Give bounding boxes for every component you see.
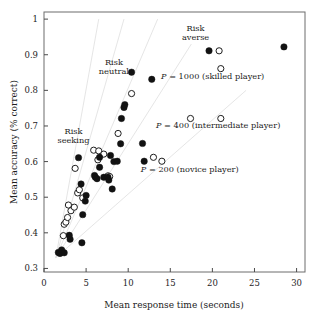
y-tick-label: 0.8 <box>24 85 38 95</box>
annotation-risk-neutral: neutral <box>99 66 129 76</box>
x-tick-label: 30 <box>291 278 302 288</box>
y-tick-label: 0.3 <box>24 263 38 273</box>
data-point <box>64 214 70 220</box>
data-point <box>78 181 84 187</box>
data-point <box>61 250 67 256</box>
data-point <box>60 233 66 239</box>
data-point <box>76 187 82 193</box>
y-tick-label: 1 <box>33 14 38 24</box>
data-point <box>75 154 81 160</box>
data-point <box>281 44 287 50</box>
y-tick-label: 0.6 <box>24 157 38 167</box>
y-tick-label: 0.9 <box>24 50 38 60</box>
data-point <box>96 154 102 160</box>
data-point <box>216 48 222 54</box>
data-point <box>117 141 123 147</box>
data-point <box>149 76 155 82</box>
data-point <box>122 101 128 107</box>
data-point <box>109 186 115 192</box>
data-point <box>139 140 145 146</box>
data-point <box>206 48 212 54</box>
x-tick-label: 0 <box>41 278 46 288</box>
annotation-p-200: P = 200 (novice player) <box>140 164 239 174</box>
y-tick-label: 0.5 <box>24 192 38 202</box>
data-point <box>106 177 112 183</box>
data-point <box>150 154 156 160</box>
data-point <box>71 204 77 210</box>
data-point <box>118 115 124 121</box>
annotation-risk-averse: averse <box>182 32 209 42</box>
data-point <box>72 165 78 171</box>
annotation-p-400: P = 400 (intermediate player) <box>155 120 280 130</box>
data-point <box>128 90 134 96</box>
x-tick-label: 20 <box>207 278 218 288</box>
data-point <box>114 158 120 164</box>
y-axis-title: Mean accuracy (% correct) <box>9 80 19 204</box>
chart-canvas: 0.30.40.50.60.70.80.91 051015202530 Risk… <box>0 0 319 321</box>
data-point <box>80 211 86 217</box>
y-tick-label: 0.4 <box>24 228 38 238</box>
x-tick-label: 5 <box>83 278 88 288</box>
x-axis-title: Mean response time (seconds) <box>104 300 243 310</box>
scatter-plot-figure: 0.30.40.50.60.70.80.91 051015202530 Risk… <box>0 0 319 321</box>
data-point <box>94 175 100 181</box>
x-tick-label: 25 <box>249 278 260 288</box>
data-point <box>128 69 134 75</box>
data-point <box>79 240 85 246</box>
data-point <box>96 164 102 170</box>
annotation-p-1000: P = 1000 (skilled player) <box>160 71 264 81</box>
data-point <box>82 198 88 204</box>
y-tick-label: 0.7 <box>24 121 38 131</box>
data-point <box>67 236 73 242</box>
data-point <box>83 192 89 198</box>
annotation-risk-seeking: seeking <box>57 135 89 145</box>
data-point <box>107 152 113 158</box>
data-point <box>115 130 121 136</box>
x-tick-label: 10 <box>123 278 134 288</box>
x-tick-label: 15 <box>165 278 176 288</box>
